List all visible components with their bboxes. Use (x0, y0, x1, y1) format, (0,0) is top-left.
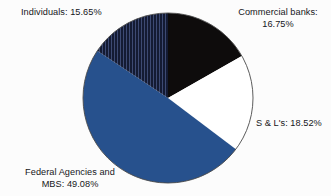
pie-label-commercial-banks: Commercial banks: 16.75% (228, 6, 328, 30)
pie-label-individuals-line1: Individuals: 15.65% (21, 6, 102, 18)
pie-label-federal-agencies-line1: Federal Agencies and (6, 166, 134, 178)
pie-label-s-and-ls: S & L's: 18.52% (256, 117, 322, 129)
pie-label-federal-agencies: Federal Agencies and MBS: 49.08% (6, 166, 134, 190)
pie-label-individuals: Individuals: 15.65% (21, 6, 102, 18)
pie-label-federal-agencies-line2: MBS: 49.08% (6, 178, 134, 190)
pie-slices-group (83, 13, 253, 183)
pie-chart: Individuals: 15.65% Commercial banks: 16… (0, 0, 331, 196)
pie-label-commercial-banks-line1: Commercial banks: (228, 6, 328, 18)
pie-label-commercial-banks-line2: 16.75% (228, 18, 328, 30)
pie-label-s-and-ls-line1: S & L's: 18.52% (256, 117, 322, 129)
